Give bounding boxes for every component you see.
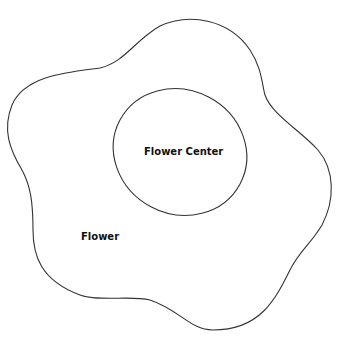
flower-outline: [7, 19, 331, 330]
flower-diagram: Flower Center Flower: [0, 0, 344, 346]
flower-label: Flower: [81, 231, 119, 242]
flower-center-label: Flower Center: [144, 146, 223, 157]
